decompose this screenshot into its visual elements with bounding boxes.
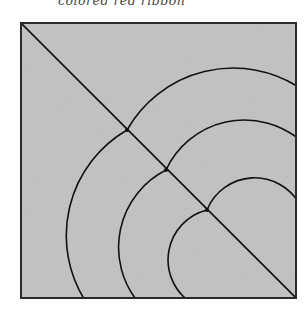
junction-3 <box>205 208 209 212</box>
diagram <box>0 0 308 316</box>
junction-2 <box>164 168 168 172</box>
junction-1 <box>125 128 129 132</box>
